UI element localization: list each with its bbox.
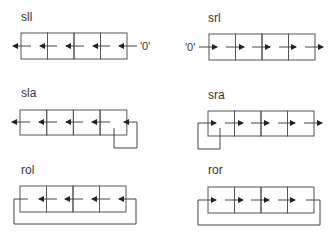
sll-label: sll <box>21 10 32 24</box>
srl-zero-input: '0' <box>185 41 195 53</box>
sra-label: sra <box>208 88 225 102</box>
srl-label: srl <box>208 11 221 25</box>
sll-zero-input: '0' <box>140 40 150 52</box>
rol-label: rol <box>21 163 34 177</box>
ror-diagram: ror <box>198 163 320 225</box>
rol-diagram: rol <box>14 163 136 224</box>
sra-diagram: sra <box>198 88 322 149</box>
sll-diagram: sll '0' <box>13 10 150 59</box>
srl-diagram: srl '0' <box>185 11 323 60</box>
ror-label: ror <box>208 163 223 177</box>
sla-diagram: sla <box>12 86 137 148</box>
sla-label: sla <box>21 86 37 100</box>
shift-operations-diagram: sll '0' srl '0' <box>0 0 335 235</box>
